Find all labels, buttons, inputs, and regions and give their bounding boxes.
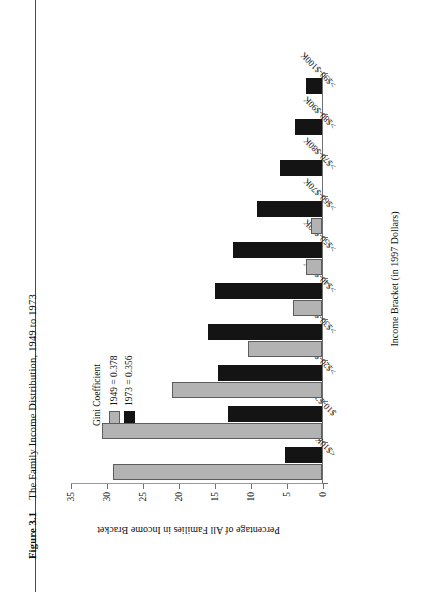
bar <box>306 78 322 94</box>
bar <box>247 341 321 357</box>
y-axis-tick-label: 20 <box>174 492 184 502</box>
bar <box>306 259 322 275</box>
figure-number: Figure 3.1 <box>27 512 38 559</box>
y-axis-tick <box>107 484 108 489</box>
bar <box>311 218 322 234</box>
bar <box>293 300 322 316</box>
y-axis-tick-label: 0 <box>318 492 328 497</box>
bar <box>207 324 321 340</box>
x-axis-tick <box>323 401 328 402</box>
y-axis-tick-label: 15 <box>210 492 220 502</box>
y-axis-tick <box>179 484 180 489</box>
bar <box>113 464 322 480</box>
y-axis-tick-label: 10 <box>246 492 256 502</box>
y-axis-tick <box>251 484 252 489</box>
y-axis-tick <box>323 484 324 489</box>
bar <box>218 365 322 381</box>
bar <box>227 406 321 422</box>
bar <box>257 201 322 217</box>
y-axis-tick-label: 5 <box>282 492 292 497</box>
y-axis-tick <box>287 484 288 489</box>
y-axis-tick <box>71 484 72 489</box>
y-axis-tick-label: 25 <box>138 492 148 502</box>
plot-area: 05101520253035<$10K$10-$20K>$20-$30K>$30… <box>71 74 323 484</box>
y-axis-tick <box>143 484 144 489</box>
y-axis-tick <box>215 484 216 489</box>
x-axis-tick <box>323 360 328 361</box>
bar <box>214 283 321 299</box>
y-axis-tick-label: 30 <box>102 492 112 502</box>
figure-title: The Family Income Distribution, 1949 to … <box>27 294 38 500</box>
x-axis-tick <box>323 278 328 279</box>
x-axis-tick <box>323 442 328 443</box>
bar <box>284 447 321 463</box>
y-axis-tick-label: 35 <box>66 492 76 502</box>
bar <box>232 242 321 258</box>
x-axis-tick <box>323 319 328 320</box>
x-axis-title: Income Bracket (in 1997 Dollars) <box>389 74 400 484</box>
x-axis-tick <box>323 483 328 484</box>
x-axis-tick <box>323 237 328 238</box>
figure-caption: Figure 3.1 The Family Income Distributio… <box>21 0 43 559</box>
bar <box>101 423 321 439</box>
bar <box>171 382 321 398</box>
x-axis-tick <box>323 73 328 74</box>
chart-canvas: Gini Coefficient 1949 = 0.3781973 = 0.35… <box>57 16 429 576</box>
y-axis-title: Percentage of All Families in Income Bra… <box>62 525 314 536</box>
y-axis-line <box>71 483 323 484</box>
bar <box>295 119 322 135</box>
x-axis-tick <box>323 196 328 197</box>
x-axis-tick <box>323 114 328 115</box>
bar <box>279 160 321 176</box>
x-axis-tick <box>323 155 328 156</box>
